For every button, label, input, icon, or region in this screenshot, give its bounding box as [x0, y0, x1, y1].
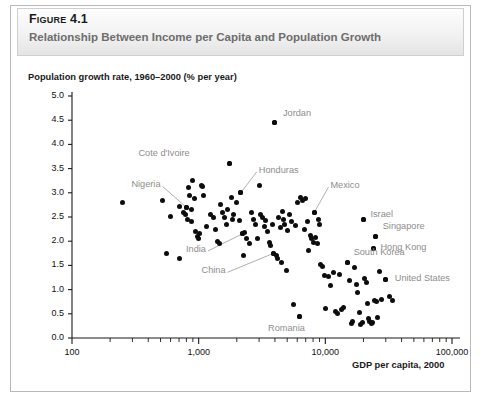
- data-point: [177, 256, 182, 261]
- point-label: Mexico: [330, 180, 359, 190]
- figure-root: Figure 4.1 Relationship Between Income p…: [0, 0, 481, 400]
- data-point: [168, 214, 173, 219]
- y-tick-label: 4.5: [30, 114, 64, 124]
- data-point: [350, 319, 355, 324]
- data-point: [295, 200, 300, 205]
- x-tick-label: 1,000: [169, 347, 229, 357]
- point-label: United States: [395, 273, 450, 283]
- data-point-labeled: [361, 217, 366, 222]
- data-point: [177, 204, 182, 209]
- y-tick-label: 0.0: [30, 332, 64, 342]
- data-point: [285, 228, 290, 233]
- y-tick-label: 1.5: [30, 259, 64, 269]
- data-point: [317, 222, 322, 227]
- y-tick-label: 3.5: [30, 163, 64, 173]
- data-point: [364, 280, 369, 285]
- data-point: [213, 227, 218, 232]
- point-label: Singapore: [383, 221, 425, 231]
- data-point: [370, 320, 375, 325]
- x-tick-label: 100: [42, 347, 102, 357]
- data-point-labeled: [297, 314, 302, 319]
- data-point: [247, 241, 252, 246]
- point-label: China: [202, 265, 226, 275]
- data-point: [257, 183, 262, 188]
- data-point-labeled: [271, 251, 276, 256]
- scatter-chart: Population growth rate, 1960–2000 (% per…: [0, 0, 481, 400]
- data-point-labeled: [184, 205, 189, 210]
- data-point: [365, 301, 370, 306]
- point-label: Israel: [370, 209, 392, 219]
- x-tick-label: 10,000: [295, 347, 355, 357]
- data-point: [320, 264, 325, 269]
- data-point: [229, 195, 234, 200]
- data-point: [337, 272, 342, 277]
- data-point: [355, 290, 360, 295]
- data-point: [192, 196, 197, 201]
- y-tick-label: 2.5: [30, 211, 64, 221]
- data-point: [241, 253, 246, 258]
- data-point: [291, 302, 296, 307]
- data-point: [331, 270, 336, 275]
- data-point: [249, 210, 254, 215]
- data-point: [189, 207, 194, 212]
- data-point: [284, 268, 289, 273]
- point-label: Romania: [268, 323, 305, 333]
- data-point: [222, 215, 227, 220]
- point-label: Honduras: [259, 165, 299, 175]
- point-label: South Korea: [354, 247, 405, 257]
- y-tick-label: 2.0: [30, 235, 64, 245]
- data-point: [230, 217, 235, 222]
- data-point: [270, 222, 275, 227]
- data-point: [253, 222, 258, 227]
- point-label: India: [186, 244, 206, 254]
- y-tick-label: 1.0: [30, 284, 64, 294]
- point-label: Cote d'Ivoire: [138, 148, 189, 158]
- data-point: [120, 200, 125, 205]
- data-point: [360, 320, 365, 325]
- point-label: Nigeria: [131, 179, 160, 189]
- data-point: [390, 298, 395, 303]
- data-point: [268, 243, 273, 248]
- point-label: Jordan: [283, 108, 311, 118]
- y-tick-label: 3.0: [30, 187, 64, 197]
- y-tick-label: 5.0: [30, 90, 64, 100]
- y-tick-label: 4.0: [30, 138, 64, 148]
- data-point: [302, 227, 307, 232]
- chart-canvas: [0, 0, 481, 400]
- y-tick-label: 0.5: [30, 308, 64, 318]
- data-point: [354, 282, 359, 287]
- data-point: [287, 212, 292, 217]
- data-point: [326, 274, 331, 279]
- data-point: [204, 224, 209, 229]
- data-point: [315, 241, 320, 246]
- x-tick-label: 100,000: [422, 347, 481, 357]
- data-point: [280, 209, 285, 214]
- data-point: [224, 222, 229, 227]
- data-point: [217, 241, 222, 246]
- data-point: [160, 198, 165, 203]
- data-point-labeled: [312, 210, 317, 215]
